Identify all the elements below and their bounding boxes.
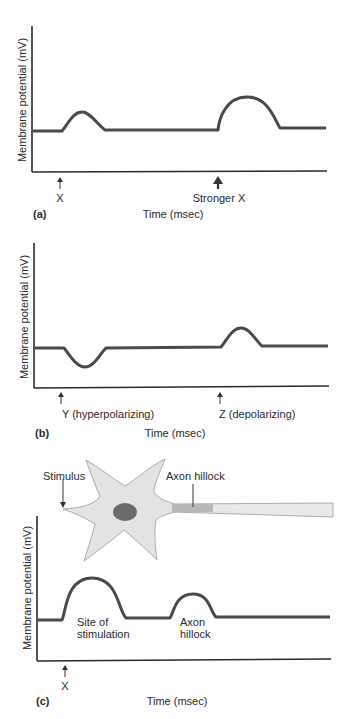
x-axis-label: Time (msec) — [145, 427, 206, 439]
stimulus-label-y: Y (hyperpolarizing) — [62, 408, 154, 420]
stimulus-arrow-x — [57, 177, 63, 189]
trace-label-site-line2: stimulation — [77, 628, 130, 640]
x-axis — [37, 659, 331, 661]
x-axis — [34, 386, 329, 388]
trace-label-site-line1: Site of — [77, 616, 109, 628]
stimulus-arrow-stronger-x — [213, 176, 223, 189]
trace-label-hillock-line1: Axon — [180, 616, 205, 628]
y-axis-label: Membrane potential (mV) — [21, 526, 33, 650]
graded-potentials-figure: Membrane potential (mV) X Stronger X (a)… — [0, 0, 348, 719]
panel-c: Stimulus Axon hillock Membrane potential… — [21, 459, 333, 707]
stimulus-label-x: X — [61, 680, 69, 692]
trace-graded-potentials — [33, 97, 326, 131]
panel-label-c: (c) — [36, 695, 50, 707]
axon-hillock-label: Axon hillock — [166, 470, 225, 482]
stimulus-label-stronger-x: Stronger X — [193, 192, 246, 204]
trace-graded-potentials — [35, 328, 328, 367]
trace-label-hillock-line2: hillock — [180, 628, 211, 640]
neuron-illustration: Stimulus Axon hillock — [43, 459, 333, 561]
nucleus — [113, 503, 137, 521]
trace-graded-potentials — [38, 578, 330, 620]
x-axis-label: Time (msec) — [147, 695, 208, 707]
arrow-down-icon — [60, 502, 66, 508]
panel-b: Membrane potential (mV) Y (hyperpolarizi… — [18, 243, 329, 439]
y-axis-label: Membrane potential (mV) — [16, 38, 28, 162]
panel-a: Membrane potential (mV) X Stronger X (a)… — [16, 26, 327, 220]
x-axis — [32, 171, 327, 172]
panel-label-b: (b) — [35, 427, 49, 439]
stimulus-arrow-z — [217, 392, 223, 404]
x-axis-label: Time (msec) — [143, 208, 204, 220]
stimulus-label-x: X — [56, 192, 64, 204]
panel-label-a: (a) — [33, 208, 47, 220]
stimulus-label: Stimulus — [43, 470, 86, 482]
stimulus-arrow-y — [58, 392, 64, 404]
stimulus-arrow-x — [62, 665, 68, 677]
y-axis-label: Membrane potential (mV) — [18, 255, 30, 379]
stimulus-label-z: Z (depolarizing) — [219, 408, 295, 420]
